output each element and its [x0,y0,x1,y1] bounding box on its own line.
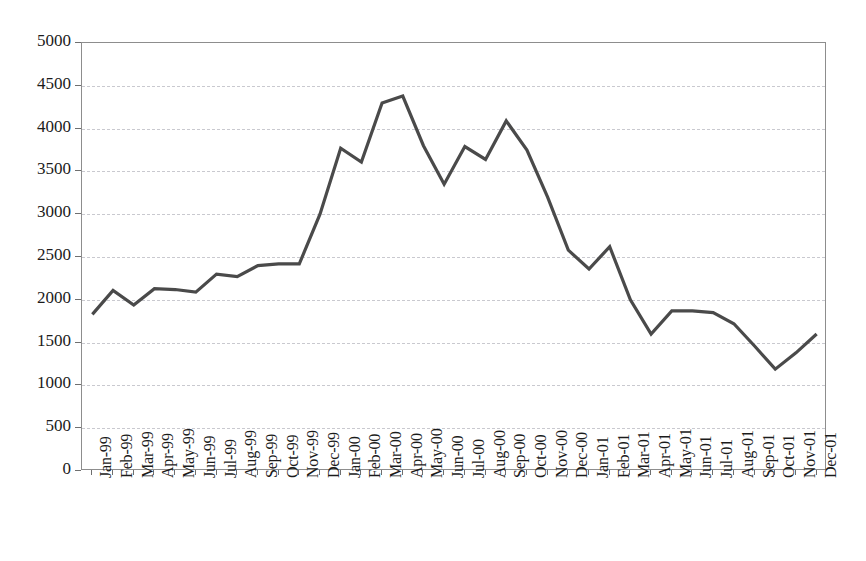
x-tick-label: Dec-00 [573,432,591,478]
x-tick-label: Dec-01 [822,432,840,478]
y-tick-label: 2500 [0,245,71,265]
y-tick-label: 1000 [0,373,71,393]
series-line [92,96,816,369]
y-tick-mark [75,42,81,43]
x-tick-label: Jul-99 [222,439,240,478]
x-tick-label: Oct-00 [532,435,550,478]
y-tick-label: 3000 [0,202,71,222]
x-tick-label: Jan-00 [346,437,364,478]
y-tick-mark [75,85,81,86]
x-tick-label: Aug-01 [739,430,757,478]
y-tick-label: 1500 [0,331,71,351]
y-tick-mark [75,427,81,428]
x-tick-label: Mar-00 [387,432,405,478]
x-tick-label: Apr-01 [656,433,674,478]
y-tick-mark [75,128,81,129]
x-tick-label: Apr-99 [159,433,177,478]
x-tick-label: Jul-01 [718,439,736,478]
x-tick-label: Jun-99 [201,436,219,478]
y-tick-mark [75,213,81,214]
y-tick-label: 4500 [0,74,71,94]
x-tick-label: May-99 [180,429,198,478]
y-tick-mark [75,470,81,471]
x-tick-label: Oct-01 [780,435,798,478]
x-tick-label: Nov-01 [801,430,819,478]
y-tick-label: 5000 [0,31,71,51]
y-tick-mark [75,342,81,343]
plot-area [81,42,826,470]
x-tick-mark [91,470,92,475]
y-tick-mark [75,170,81,171]
y-tick-label: 3500 [0,159,71,179]
y-tick-label: 500 [0,416,71,436]
y-tick-mark [75,256,81,257]
x-tick-label: Sep-00 [511,434,529,478]
x-tick-label: Feb-00 [366,434,384,478]
x-tick-label: Jul-00 [470,439,488,478]
line-chart: 0500100015002000250030003500400045005000… [0,0,866,561]
y-tick-label: 2000 [0,288,71,308]
y-tick-label: 0 [0,459,71,479]
x-tick-label: Feb-99 [118,434,136,478]
x-tick-label: Jun-00 [449,436,467,478]
x-tick-label: Oct-99 [284,435,302,478]
x-tick-label: Feb-01 [615,434,633,478]
x-tick-label: Jun-01 [697,436,715,478]
x-tick-label: Sep-99 [263,434,281,478]
x-tick-label: Mar-99 [139,432,157,478]
x-tick-label: May-01 [677,429,695,478]
x-tick-label: Mar-01 [635,432,653,478]
x-tick-label: Nov-99 [304,430,322,478]
x-tick-label: Nov-00 [553,430,571,478]
x-tick-label: Jan-99 [97,437,115,478]
y-tick-mark [75,299,81,300]
x-tick-label: Dec-99 [325,432,343,478]
y-tick-label: 4000 [0,117,71,137]
series-svg [82,43,827,471]
x-tick-label: Jan-01 [594,437,612,478]
x-tick-label: May-00 [428,429,446,478]
x-tick-label: Sep-01 [760,434,778,478]
x-tick-label: Aug-99 [242,430,260,478]
y-tick-mark [75,384,81,385]
x-tick-label: Apr-00 [408,433,426,478]
x-tick-label: Aug-00 [491,430,509,478]
